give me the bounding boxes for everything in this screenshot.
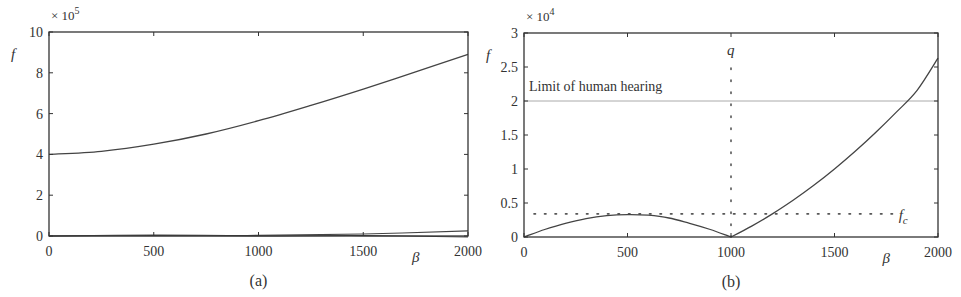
x-tick-label: 2000 [924,245,952,260]
y-axis-label: f [486,47,492,63]
plot-frame [524,33,938,237]
plot-frame [49,32,468,236]
cutoff-frequency-label: fc [899,207,908,226]
x-tick-label: 1500 [821,245,849,260]
x-tick-label: 1000 [717,245,745,260]
x-tick-label: 1000 [245,244,273,259]
subfigure-caption: (b) [722,273,741,291]
y-tick-label: 2 [36,188,43,203]
y-tick-label: 6 [36,107,43,122]
upper-branch-curve [49,54,468,154]
y-tick-label: 8 [36,66,43,81]
y-multiplier: × 105 [51,5,80,23]
y-tick-label: 0 [36,229,43,244]
y-tick-label: 0 [511,230,518,245]
y-tick-label: 10 [29,25,43,40]
y-axis-label: f [11,46,17,62]
y-tick-label: 0.5 [501,196,519,211]
x-tick-label: 500 [617,245,638,260]
x-tick-label: 0 [521,245,528,260]
y-tick-label: 3 [511,26,518,41]
subfigure-caption: (a) [250,272,268,290]
x-tick-label: 1500 [349,244,377,259]
y-multiplier: × 104 [526,6,555,24]
x-tick-label: 2000 [454,244,482,259]
x-axis-label: β [411,249,420,265]
chart-b: Limit of human hearingfcq050010001500200… [486,6,952,291]
y-tick-label: 4 [36,147,43,162]
y-tick-label: 2 [511,94,518,109]
figure: 05001000150020000246810× 105fβ(a) Limit … [0,0,961,297]
y-tick-label: 2.5 [501,60,519,75]
x-tick-label: 0 [46,244,53,259]
y-tick-label: 1.5 [501,128,519,143]
chart-a: 05001000150020000246810× 105fβ(a) [11,5,482,290]
hearing-limit-label: Limit of human hearing [529,79,662,94]
x-axis-label: β [882,250,891,266]
x-tick-label: 500 [143,244,164,259]
y-tick-label: 1 [511,162,518,177]
q-marker-label: q [727,42,735,58]
